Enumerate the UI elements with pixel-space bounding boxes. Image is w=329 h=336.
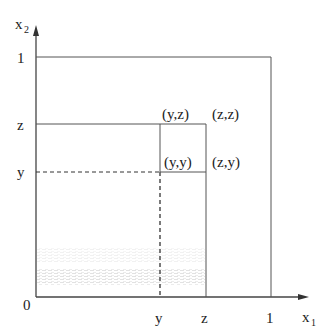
shaded-region-light xyxy=(37,248,205,262)
shaded-region xyxy=(37,268,205,285)
y-tick-1: 1 xyxy=(17,50,25,66)
x-tick-z: z xyxy=(201,310,208,326)
x-axis-label: x xyxy=(302,309,310,325)
x-axis-arrow-icon xyxy=(298,294,309,300)
y-axis-arrow-icon xyxy=(33,25,39,36)
y-axis-label: x xyxy=(15,16,23,32)
y-axis-subscript: 2 xyxy=(24,24,29,35)
x-tick-1: 1 xyxy=(266,310,274,326)
point-label-zy: (z,y) xyxy=(212,154,240,171)
point-label-zz: (z,z) xyxy=(212,106,239,123)
unit-square-diagram: x 2 x 1 0 1 z y y z 1 (y,z) (z,z) (y,y) … xyxy=(0,0,329,336)
point-label-yz: (y,z) xyxy=(162,106,189,123)
point-label-yy: (y,y) xyxy=(164,154,192,171)
x-tick-y: y xyxy=(155,310,163,326)
x-axis-subscript: 1 xyxy=(311,317,316,328)
y-tick-y: y xyxy=(17,164,25,180)
y-tick-z: z xyxy=(17,117,24,133)
origin-label: 0 xyxy=(23,297,31,313)
